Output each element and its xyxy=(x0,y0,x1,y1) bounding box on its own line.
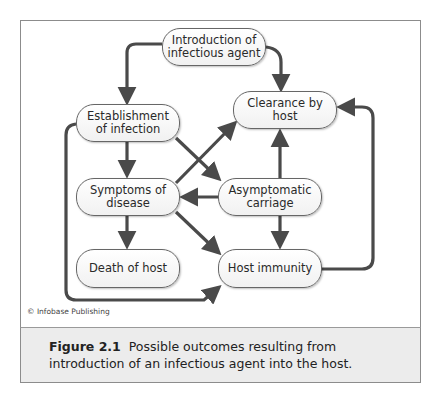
node-symptoms: Symptoms ofdisease xyxy=(76,178,180,216)
node-line: infectious agent xyxy=(168,46,261,60)
node-line: carriage xyxy=(246,196,293,210)
node-asymptomatic: Asymptomaticcarriage xyxy=(218,178,322,216)
figure-caption: Figure 2.1 Possible outcomes resulting f… xyxy=(49,338,409,372)
node-line: disease xyxy=(106,196,150,210)
node-line: Introduction of xyxy=(172,33,256,47)
node-introduction: Introduction ofinfectious agent xyxy=(162,28,266,66)
node-death: Death of host xyxy=(76,249,180,288)
arrow-establishment-asymptomatic xyxy=(176,138,218,178)
arrow-symptoms-immunity xyxy=(176,212,218,252)
node-establishment: Establishmentof infection xyxy=(76,104,180,142)
arrow-intro-establishment xyxy=(127,44,162,101)
arrow-immunity-clearance xyxy=(321,107,373,269)
node-line: Asymptomatic xyxy=(229,183,312,197)
copyright-credit: © Infobase Publishing xyxy=(27,307,110,316)
node-line: Death of host xyxy=(89,262,167,275)
node-line: Clearance by host xyxy=(234,97,336,123)
node-line: of infection xyxy=(96,122,161,136)
node-line: Symptoms of xyxy=(90,183,166,197)
node-line: Host immunity xyxy=(228,262,313,275)
node-clearance: Clearance by host xyxy=(233,91,337,129)
arrow-intro-clearance xyxy=(266,47,281,88)
node-line: Establishment xyxy=(87,109,169,123)
node-immunity: Host immunity xyxy=(218,249,322,288)
figure-label: Figure 2.1 xyxy=(49,339,121,354)
arrow-symptoms-clearance xyxy=(176,124,234,183)
